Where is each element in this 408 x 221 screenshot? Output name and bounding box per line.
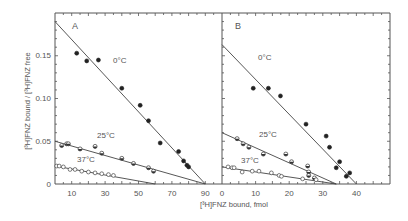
panel-b-0c-point <box>304 122 308 126</box>
panel-b-25c-point <box>241 142 245 146</box>
panel-a-37c-point <box>68 168 72 172</box>
panel-b-37c-point <box>250 169 254 173</box>
y-tick-label-0: 0 <box>47 180 52 189</box>
panel-b-25c-point <box>247 145 251 149</box>
panel-a-0c-point <box>182 159 186 163</box>
panel-a-37c-point <box>112 174 116 178</box>
panel-b-37c-point <box>314 178 318 182</box>
panel-a-37c-point <box>100 172 104 176</box>
panel-a-37c-point <box>80 169 84 173</box>
panel-a-0c-point <box>120 86 124 90</box>
panel-a-0c-point <box>185 163 189 167</box>
panel-a-0c-point <box>147 119 151 123</box>
panel-b-37c-point <box>269 171 273 175</box>
panel-b-0c-label: 0°C <box>258 53 272 62</box>
panel-a-37c-point <box>61 165 65 169</box>
panel-b-0c-point <box>348 171 352 175</box>
panel-b-25c-point <box>235 137 239 141</box>
x-axis-title: [³H]FNZ bound, fmol <box>200 200 268 209</box>
panel-a-x-tick-label: 70 <box>167 189 176 198</box>
panel-a-25c-point <box>78 147 82 151</box>
panel-b-x-tick-label: 10 <box>251 189 260 198</box>
panel-b-25c-point <box>261 152 265 156</box>
panel-a-x-tick-label: 90 <box>201 189 210 198</box>
panel-a-25c-point <box>100 151 104 155</box>
panel-a-37c-point <box>57 164 61 168</box>
panel-b-0c-point <box>334 166 338 170</box>
panel-b-0c-point <box>251 86 255 90</box>
panel-a-x-tick-label: 30 <box>101 189 110 198</box>
panel-b-25c-point <box>284 152 288 156</box>
panel-a-25c-point <box>60 144 64 148</box>
y-tick-label-0.10: 0.10 <box>35 94 51 103</box>
data-points <box>55 51 352 181</box>
panel-a-25c-label: 25°C <box>97 131 115 140</box>
panel-a-0c-point <box>96 58 100 62</box>
panel-a-x-tick-label: 10 <box>67 189 76 198</box>
panel-b-25c-point <box>306 164 310 168</box>
panel-b-0c-point <box>278 94 282 98</box>
y-tick-label-0.15: 0.15 <box>35 51 51 60</box>
panel-a-25c-point <box>147 166 151 170</box>
panel-b-37c-point <box>257 169 261 173</box>
y-axis-title: [³H]FNZ bound / [³H]FNZ free <box>23 52 32 150</box>
panel-b-x-tick-label: 20 <box>285 189 294 198</box>
x-tick-labels: 1030507090010203040 <box>67 189 361 198</box>
panel-a-x-tick-label: 50 <box>134 189 143 198</box>
panel-a-0c-point <box>138 103 142 107</box>
scatchard-figure: 0 0.05 0.10 0.15 1030507090010203040 A B… <box>0 0 408 221</box>
panel-a-37c-point <box>87 170 91 174</box>
panel-b-0c-point <box>324 134 328 138</box>
panel-a-37c-point <box>93 171 97 175</box>
panel-b-label: B <box>235 21 241 31</box>
panel-a-37c-point <box>107 173 111 177</box>
panel-b-x-tick-label: 0 <box>220 189 225 198</box>
panel-b-25c-label: 25°C <box>259 130 277 139</box>
panel-a-label: A <box>72 21 78 31</box>
panel-a-0c-point <box>75 51 79 55</box>
panel-b-37c-point <box>232 166 236 170</box>
panel-a-37c-label: 37°C <box>77 155 95 164</box>
panel-b-x-tick-label: 30 <box>318 189 327 198</box>
panel-a-25c-point <box>131 161 135 165</box>
panel-b-0c-point <box>344 174 348 178</box>
panel-a-0c-point <box>177 150 181 154</box>
panel-a-37c-point <box>73 168 77 172</box>
panel-b-37c-point <box>280 174 284 178</box>
panel-b-0c-point <box>328 145 332 149</box>
y-tick-label-0.05: 0.05 <box>35 137 51 146</box>
panel-a-25c-point <box>120 156 124 160</box>
panel-b-37c-point <box>301 177 305 181</box>
panel-b-37c-point <box>240 170 244 174</box>
panel-b-25c-point <box>307 173 311 177</box>
panel-b-37c-label: 37°C <box>241 156 259 165</box>
panel-b-0c-point <box>266 86 270 90</box>
axis-ticks <box>55 13 390 184</box>
panel-b-37c-point <box>226 165 230 169</box>
panel-a-0c-label: 0°C <box>113 56 127 65</box>
panel-b-25c-point <box>290 160 294 164</box>
panel-a-0c-point <box>85 59 89 63</box>
panel-a-25c-point <box>152 169 156 173</box>
fit-lines <box>55 22 356 184</box>
panel-b-x-tick-label: 40 <box>352 189 361 198</box>
panel-b-0c-point <box>338 160 342 164</box>
panel-a-25c-point <box>93 144 97 148</box>
panel-a-25c-point <box>66 142 70 146</box>
panel-a-0c-point <box>158 141 162 145</box>
